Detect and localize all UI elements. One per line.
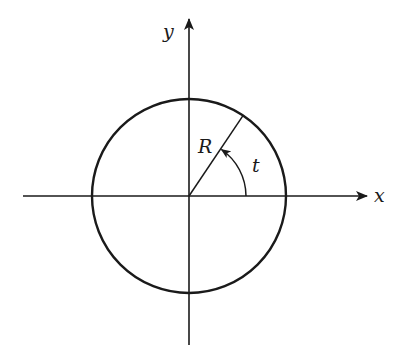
angle-label: t bbox=[252, 154, 260, 176]
x-axis-label: x bbox=[374, 184, 385, 206]
circle-parametric-diagram: y x R t bbox=[0, 0, 410, 359]
angle-arc-arrow-icon bbox=[222, 150, 247, 197]
radius-label: R bbox=[197, 135, 212, 157]
y-axis-label: y bbox=[162, 20, 174, 42]
